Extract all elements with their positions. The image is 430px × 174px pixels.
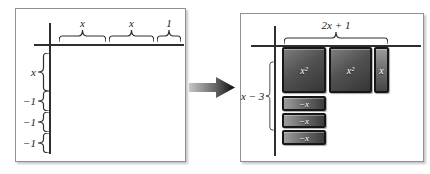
side-brace-x-label: x (31, 66, 36, 79)
tile-x-squared-1-label: x² (300, 65, 307, 76)
side-brace-x: x (16, 53, 49, 91)
tile-x-label: x (379, 65, 383, 76)
tile-x-squared-1: x² (282, 47, 326, 93)
left-brace-icon (38, 112, 49, 132)
tile-neg-x-3-label: −x (299, 133, 309, 143)
top-brace-x-1-label: x (59, 17, 106, 30)
tile-neg-x-2: −x (282, 113, 326, 128)
overbrace-icon (59, 30, 106, 43)
tile-x: x (374, 47, 389, 93)
top-brace-x-1: x (59, 17, 106, 43)
tile-x-squared-2-label: x² (347, 65, 354, 76)
side-brace-x-minus-3-label: x − 3 (241, 90, 264, 103)
top-brace-2x-plus-1: 2x + 1 (284, 19, 388, 45)
tile-neg-x-1: −x (282, 96, 326, 111)
tile-x-squared-2: x² (329, 47, 372, 93)
side-brace-x-minus-3: x − 3 (241, 47, 274, 145)
right-panel-tiles-frame: 2x + 1 x − 3 x² x² x −x −x −x (240, 13, 424, 162)
left-brace-icon (38, 53, 49, 91)
top-brace-one-label: 1 (157, 17, 181, 30)
side-brace-neg1-1: −1 (16, 91, 49, 111)
overbrace-icon (157, 30, 181, 43)
side-brace-neg1-3: −1 (16, 133, 49, 153)
overbrace-icon (284, 32, 388, 45)
left-brace-icon (266, 47, 274, 145)
side-brace-neg1-3-label: −1 (23, 137, 36, 150)
transform-arrow-icon (189, 76, 236, 99)
left-panel-horizontal-axis (34, 44, 184, 46)
top-brace-x-2-label: x (109, 17, 154, 30)
algebra-tiles-figure: { "left_panel": { "top_braces": [ {"labe… (0, 0, 430, 174)
tile-neg-x-3: −x (282, 130, 326, 145)
left-brace-icon (38, 91, 49, 111)
top-brace-x-2: x (109, 17, 154, 43)
left-panel-vertical-axis (49, 23, 51, 154)
tile-neg-x-1-label: −x (299, 99, 309, 109)
left-panel-empty-frame: x x 1 x −1 −1 −1 (15, 8, 186, 162)
tile-neg-x-2-label: −x (299, 116, 309, 126)
top-brace-2x-plus-1-label: 2x + 1 (284, 19, 388, 32)
top-brace-one: 1 (157, 17, 181, 43)
side-brace-neg1-1-label: −1 (23, 95, 36, 108)
side-brace-neg1-2-label: −1 (23, 116, 36, 129)
left-brace-icon (38, 133, 49, 153)
overbrace-icon (109, 30, 154, 43)
side-brace-neg1-2: −1 (16, 112, 49, 132)
